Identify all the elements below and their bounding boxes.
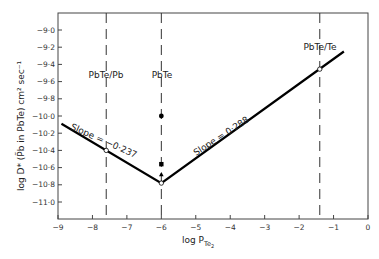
filled-triangle-marker (159, 172, 164, 176)
boundary-lines (106, 13, 320, 219)
x-tick-label: −2 (294, 223, 305, 232)
x-tick-label: −1 (328, 223, 339, 232)
x-tick-label: −6 (156, 223, 167, 232)
y-tick-label: −10·4 (32, 146, 55, 155)
x-tick-label: −7 (121, 223, 132, 232)
y-tick-label: −11·0 (32, 198, 55, 207)
x-tick-label: 0 (366, 223, 371, 232)
y-tick-label: −9·8 (37, 94, 55, 103)
slope-right-annotation: Slope = 0·288 (192, 114, 251, 157)
y-tick-label: −10·8 (32, 180, 55, 189)
y-tick-label: −10·6 (32, 163, 55, 172)
x-tick-label: −4 (225, 223, 236, 232)
y-tick-label: −10·2 (32, 129, 55, 138)
x-tick-label: −5 (190, 223, 201, 232)
x-axis-title: log PTe2 (182, 235, 214, 249)
y-axis-label: log D* (P̃b in PbTe) cm² sec⁻¹ (15, 61, 26, 192)
y-tick-label: −9·0 (37, 26, 55, 35)
y-tick-label: −9·2 (37, 43, 55, 52)
x-tick-label: −8 (87, 223, 98, 232)
x-tick-label: −9 (52, 223, 63, 232)
x-axis: −9−8−7−6−5−4−3−2−10 (52, 215, 370, 232)
label-pbte-te: PbTe/Te (303, 42, 337, 52)
open-circle-marker (318, 67, 322, 71)
x-tick-label: −3 (259, 223, 270, 232)
open-circle-marker (104, 148, 108, 152)
chart: −9·0−9·2−9·4−9·6−9·8−10·0−10·2−10·4−10·6… (0, 0, 379, 259)
label-pbte: PbTe (152, 70, 173, 80)
y-axis-title: log D* (P̃b in PbTe) cm² sec⁻¹ (15, 61, 26, 192)
y-tick-label: −10·0 (32, 112, 55, 121)
slope-left-annotation: Slope = −0·237 (69, 122, 138, 160)
y-tick-label: −9·6 (37, 77, 55, 86)
filled-square-marker (159, 162, 163, 166)
open-circle-marker (159, 181, 163, 185)
filled-circle-marker (159, 114, 164, 119)
x-axis-label: log PTe2 (182, 235, 214, 249)
label-pbte-pb: PbTe/Pb (89, 70, 124, 80)
y-tick-label: −9·4 (37, 60, 55, 69)
